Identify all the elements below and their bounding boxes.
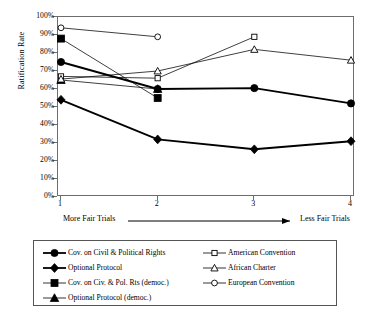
filled-circle-marker <box>51 249 58 256</box>
legend-item: Cov. on Civ. & Pol. Rts (democ.) <box>42 276 192 290</box>
legend-label: African Charter <box>228 263 276 273</box>
filled-diamond-marker <box>154 135 162 144</box>
legend-label: European Convention <box>228 278 294 288</box>
filled-square-marker <box>51 280 58 287</box>
legend-marker <box>202 246 228 260</box>
series-2 <box>58 35 162 101</box>
y-axis-tick-label: 30% <box>18 138 54 146</box>
plot-area <box>57 16 354 196</box>
filled-diamond-marker <box>250 145 258 154</box>
filled-circle-legend-icon <box>42 246 68 260</box>
open-square-marker <box>155 76 160 81</box>
series-line <box>61 28 158 37</box>
legend-item: African Charter <box>202 261 342 275</box>
series-0 <box>57 58 354 107</box>
plot-series-canvas <box>58 17 355 197</box>
open-circle-legend-icon <box>202 276 228 290</box>
filled-square-marker <box>58 35 65 42</box>
legend-item: Cov. on Civil & Political Rights <box>42 246 192 260</box>
open-triangle-legend-icon <box>202 261 228 275</box>
legend-marker <box>42 291 68 305</box>
series-line <box>61 100 351 150</box>
legend-item: Optional Protocol <box>42 261 192 275</box>
y-axis-tick-label: 100% <box>18 12 54 20</box>
direction-arrow-icon <box>0 214 370 228</box>
open-square-marker <box>212 250 217 255</box>
legend-label: Cov. on Civ. & Pol. Rts (democ.) <box>68 278 169 288</box>
legend-marker <box>42 246 68 260</box>
legend-marker <box>42 276 68 290</box>
series-6 <box>58 25 160 40</box>
x-axis-direction-annotation: More Fair Trials Less Fair Trials <box>0 214 370 228</box>
series-line <box>61 39 158 98</box>
x-axis-tick-label: 2 <box>145 199 169 208</box>
legend-item: American Convention <box>202 246 342 260</box>
y-axis-tick-label: 90% <box>18 30 54 38</box>
x-axis-tick-label: 4 <box>338 199 362 208</box>
filled-square-marker <box>154 95 161 102</box>
open-circle-marker <box>155 34 161 40</box>
legend-label: Cov. on Civil & Political Rights <box>68 248 165 258</box>
y-axis-title: Ratification Rate <box>17 6 26 116</box>
filled-diamond-marker <box>57 95 65 104</box>
x-axis-tick-label: 3 <box>241 199 265 208</box>
filled-square-legend-icon <box>42 276 68 290</box>
y-axis-tick-label: 70% <box>18 66 54 74</box>
y-axis-tick-label: 20% <box>18 156 54 164</box>
filled-circle-marker <box>57 58 64 65</box>
legend-marker <box>202 261 228 275</box>
filled-circle-marker <box>251 85 258 92</box>
legend-label: Optional Protocol (democ.) <box>68 293 151 303</box>
y-axis-tick-label: 10% <box>18 174 54 182</box>
filled-triangle-legend-icon <box>42 291 68 305</box>
y-axis-tick-label: 80% <box>18 48 54 56</box>
legend-item: Optional Protocol (democ.) <box>42 291 192 305</box>
legend-item: European Convention <box>202 276 342 290</box>
filled-diamond-marker <box>51 264 59 273</box>
y-axis-tick-label: 60% <box>18 84 54 92</box>
series-line <box>61 62 351 103</box>
legend-label: American Convention <box>228 248 295 258</box>
open-square-legend-icon <box>202 246 228 260</box>
legend-marker <box>202 276 228 290</box>
open-triangle-marker <box>251 46 258 53</box>
filled-diamond-marker <box>347 137 355 146</box>
x-axis-tick-label: 1 <box>48 199 72 208</box>
open-circle-marker <box>58 25 64 31</box>
open-square-marker <box>252 34 257 39</box>
legend-label: Optional Protocol <box>68 263 122 273</box>
legend-marker <box>42 261 68 275</box>
chart-figure: Ratification Rate 0%10%20%30%40%50%60%70… <box>0 0 370 314</box>
open-circle-marker <box>212 280 218 286</box>
y-axis-tick-label: 50% <box>18 102 54 110</box>
y-axis-tick-label: 40% <box>18 120 54 128</box>
filled-circle-marker <box>347 100 354 107</box>
chart-legend: Cov. on Civil & Political RightsOptional… <box>33 240 337 306</box>
series-1 <box>57 95 355 153</box>
filled-diamond-legend-icon <box>42 261 68 275</box>
